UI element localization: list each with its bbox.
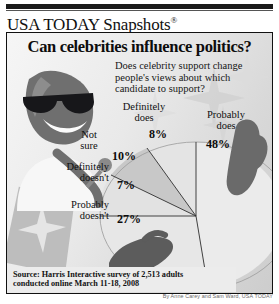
label-probably-doesnt: Probablydoesn't (31, 199, 109, 222)
label-not-sure: Notsure (69, 129, 109, 152)
registered-mark-icon: ® (170, 15, 177, 25)
masthead-top-rule (6, 4, 273, 9)
value-not-sure: 10% (112, 150, 136, 163)
snapshot-panel: Can celebrities influence politics? Does… (6, 32, 273, 294)
source-note: Source: Harris Interactive survey of 2,5… (8, 267, 236, 292)
label-definitely-doesnt: Definitelydoesn't (31, 161, 109, 184)
value-definitely-does: 8% (149, 128, 167, 141)
value-probably-doesnt: 27% (117, 213, 141, 226)
masthead-title: USA TODAY Snapshots® (7, 11, 272, 30)
label-definitely-does: Definitelydoes (111, 101, 177, 124)
label-probably-does: Probablydoes (195, 109, 257, 132)
masthead-title-text: USA TODAY Snapshots (7, 15, 170, 34)
source-line-2: conducted online March 11-18, 2008 (13, 279, 232, 289)
value-definitely-doesnt: 7% (117, 179, 135, 192)
byline: By Anne Carey and Sam Ward, USA TODAY (6, 293, 273, 300)
source-line-1: Source: Harris Interactive survey of 2,5… (13, 270, 232, 280)
value-probably-does: 48% (206, 138, 230, 151)
